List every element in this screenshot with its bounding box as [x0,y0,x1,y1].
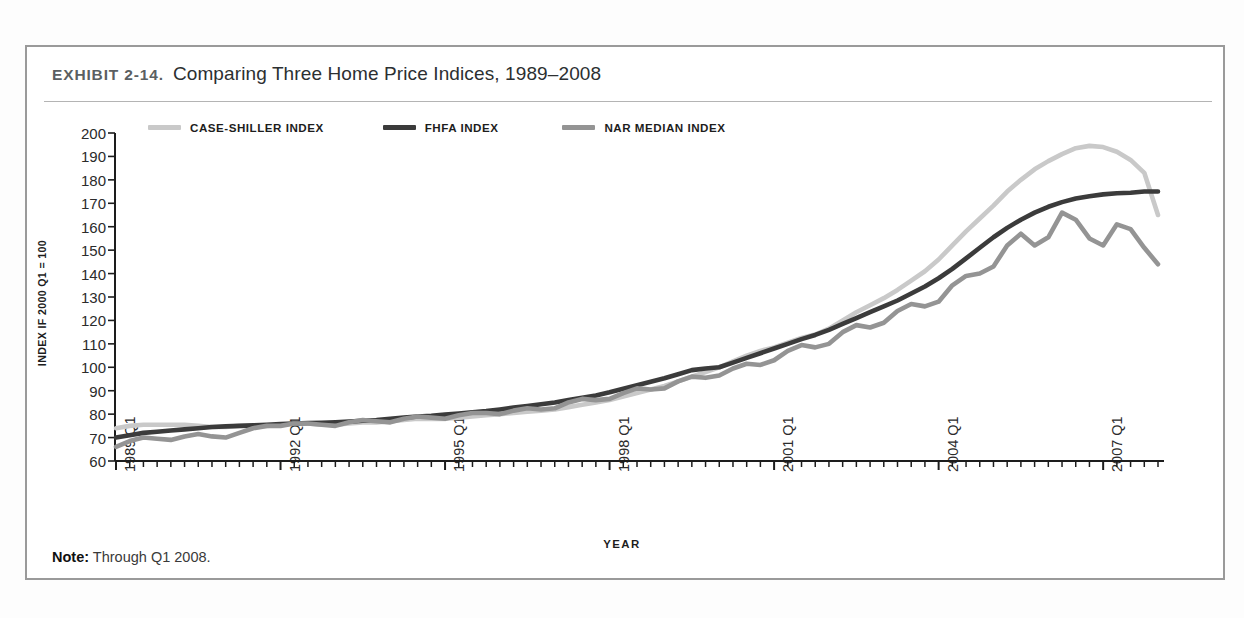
legend-item-case-shiller[interactable]: CASE-SHILLER INDEX [148,121,324,134]
y-tick-label: 100 [72,360,106,375]
legend-swatch-nar [562,125,595,130]
y-tick-label: 150 [72,243,106,258]
exhibit-number: EXHIBIT 2-14. [52,66,164,84]
exhibit-header: EXHIBIT 2-14. Comparing Three Home Price… [52,63,601,85]
chart-note: Note: Through Q1 2008. [52,549,211,565]
legend-label-nar: NAR MEDIAN INDEX [604,121,725,134]
y-tick-label: 200 [72,126,106,141]
legend-item-fhfa[interactable]: FHFA INDEX [383,121,499,134]
y-tick-label: 70 [72,431,106,446]
y-tick-label: 170 [72,196,106,211]
x-tick-label: 2001 Q1 [780,416,796,472]
y-axis-title: INDEX IF 2000 Q1 = 100 [36,228,48,378]
y-tick-label: 190 [72,149,106,164]
y-tick-label: 90 [72,384,106,399]
x-tick-label: 2007 Q1 [1109,416,1125,472]
exhibit-page: EXHIBIT 2-14. Comparing Three Home Price… [0,0,1244,618]
legend-swatch-fhfa [383,125,416,130]
note-label: Note: [52,549,89,565]
header-divider [44,101,1212,102]
legend-label-fhfa: FHFA INDEX [425,121,499,134]
y-tick-label: 120 [72,313,106,328]
y-tick-label: 110 [72,337,106,352]
chart-legend: CASE-SHILLER INDEX FHFA INDEX NAR MEDIAN… [148,121,726,134]
x-tick-label: 1998 Q1 [616,416,632,472]
page-title: Comparing Three Home Price Indices, 1989… [173,63,601,85]
legend-label-case-shiller: CASE-SHILLER INDEX [190,121,324,134]
note-text: Through Q1 2008. [93,549,211,565]
legend-item-nar[interactable]: NAR MEDIAN INDEX [562,121,725,134]
x-tick-label: 1989 Q1 [122,416,138,472]
legend-swatch-case-shiller [148,125,181,130]
y-tick-label: 180 [72,173,106,188]
y-tick-label: 140 [72,267,106,282]
x-tick-label: 1992 Q1 [287,416,303,472]
x-tick-label: 1995 Q1 [451,416,467,472]
y-tick-label: 160 [72,220,106,235]
x-tick-label: 2004 Q1 [945,416,961,472]
y-tick-label: 130 [72,290,106,305]
y-tick-label: 80 [72,407,106,422]
